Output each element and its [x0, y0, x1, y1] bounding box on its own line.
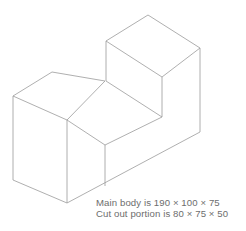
isometric-drawing-figure: Main body is 190 × 100 × 75 Cut out port… [0, 0, 246, 231]
caption-line-main-body: Main body is 190 × 100 × 75 [96, 197, 246, 208]
solid-faces [13, 15, 200, 203]
caption-line-cut-out: Cut out portion is 80 × 75 × 50 [96, 208, 246, 219]
dimension-caption: Main body is 190 × 100 × 75 Cut out port… [96, 197, 246, 219]
